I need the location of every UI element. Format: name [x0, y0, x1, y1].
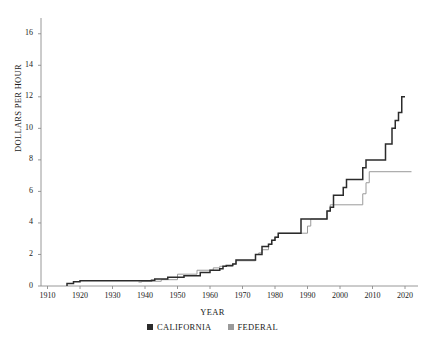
- x-tick-label: 1970: [227, 291, 259, 300]
- data-series: [67, 97, 412, 286]
- chart-legend: CALIFORNIAFEDERAL: [0, 322, 425, 332]
- y-tick-label: 2: [7, 249, 33, 258]
- y-tick-label: 0: [7, 281, 33, 290]
- x-tick-label: 2020: [389, 291, 421, 300]
- x-tick-label: 1930: [97, 291, 129, 300]
- legend-label: CALIFORNIA: [157, 322, 211, 332]
- y-axis-title-text: DOLLARS PER HOUR: [13, 64, 23, 152]
- legend-entry-california: CALIFORNIA: [147, 322, 211, 332]
- x-tick-label: 1940: [129, 291, 161, 300]
- y-axis-title: DOLLARS PER HOUR: [10, 43, 26, 173]
- minimum-wage-chart: 0246810121416 19101920193019401950196019…: [0, 0, 425, 341]
- x-tick-label: 1980: [259, 291, 291, 300]
- legend-swatch-icon: [147, 324, 153, 330]
- series-line-california: [67, 97, 405, 286]
- x-tick-label: 1990: [292, 291, 324, 300]
- x-tick-label: 2010: [357, 291, 389, 300]
- x-axis-title: YEAR: [0, 307, 425, 317]
- x-axis-ticks: [48, 286, 406, 289]
- x-tick-label: 2000: [324, 291, 356, 300]
- x-tick-label: 1920: [64, 291, 96, 300]
- x-tick-label: 1960: [194, 291, 226, 300]
- legend-swatch-icon: [228, 324, 234, 330]
- y-tick-label: 4: [7, 217, 33, 226]
- axes: [41, 18, 418, 286]
- x-tick-label: 1950: [162, 291, 194, 300]
- x-tick-label: 1910: [32, 291, 64, 300]
- series-line-federal: [139, 172, 412, 282]
- y-tick-label: 6: [7, 186, 33, 195]
- y-tick-label: 16: [7, 28, 33, 37]
- legend-entry-federal: FEDERAL: [228, 322, 278, 332]
- legend-label: FEDERAL: [238, 322, 278, 332]
- plot-area: [0, 0, 425, 341]
